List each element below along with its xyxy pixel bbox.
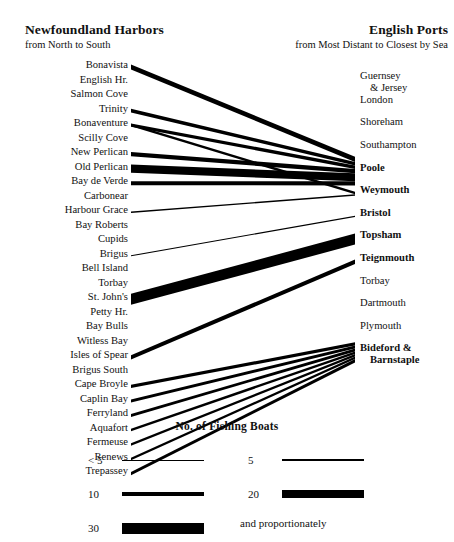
- harbor-row: Cape Broyle: [0, 377, 128, 392]
- harbor-row: Carbonear: [0, 189, 128, 204]
- harbor-row: Brigus: [0, 247, 128, 262]
- port-row: London: [360, 93, 454, 116]
- harbor-row: Caplin Bay: [0, 392, 128, 407]
- port-row: Poole: [360, 161, 454, 184]
- flow-band: [131, 234, 355, 305]
- port-label: Torbay: [360, 275, 390, 286]
- harbor-label: Harbour Grace: [65, 204, 128, 215]
- port-label: Southampton: [360, 139, 417, 150]
- harbor-label: Old Perlican: [75, 161, 128, 172]
- port-row: Weymouth: [360, 183, 454, 206]
- harbor-label: Bonavista: [86, 59, 128, 70]
- legend-entry-swatch: [122, 492, 204, 496]
- harbor-row: Scilly Cove: [0, 131, 128, 146]
- port-row: Bideford &Barnstaple: [360, 342, 454, 365]
- harbor-label: Ferryland: [87, 407, 128, 418]
- legend-entry: 5: [248, 454, 364, 466]
- harbor-label: Isles of Spear: [70, 349, 128, 360]
- harbor-label: Brigus South: [72, 364, 128, 375]
- legend-grid: < 55102030and proportionately: [0, 454, 454, 542]
- port-label: Bristol: [360, 207, 391, 218]
- port-row: Plymouth: [360, 319, 454, 342]
- flow-diagram-page: Newfoundland Harbors from North to South…: [0, 0, 454, 542]
- harbor-row: Petty Hr.: [0, 305, 128, 320]
- harbor-row: Harbour Grace: [0, 203, 128, 218]
- harbor-label: Salmon Cove: [71, 88, 128, 99]
- harbor-label: Bonaventure: [74, 117, 128, 128]
- port-row: Bristol: [360, 206, 454, 229]
- harbor-label: Trinity: [99, 103, 128, 114]
- legend-entry-swatch: [282, 490, 364, 498]
- harbor-label: St. John's: [88, 291, 128, 302]
- legend: No. of Fishing Boats < 55102030and propo…: [0, 420, 454, 542]
- harbor-row: Bonaventure: [0, 116, 128, 131]
- english-port-list: Guernsey& JerseyLondonShorehamSouthampto…: [360, 70, 454, 364]
- newfoundland-harbor-list: BonavistaEnglish Hr.Salmon CoveTrinityBo…: [0, 58, 128, 479]
- port-label-line2: Barnstaple: [360, 354, 454, 366]
- harbor-row: Witless Bay: [0, 334, 128, 349]
- harbor-label: Torbay: [98, 277, 128, 288]
- legend-entry-label: 20: [248, 488, 282, 500]
- port-label: Shoreham: [360, 116, 403, 127]
- legend-title: No. of Fishing Boats: [0, 420, 454, 432]
- legend-entry: 10: [88, 488, 204, 500]
- port-row: Guernsey& Jersey: [360, 70, 454, 93]
- harbor-row: Bay Roberts: [0, 218, 128, 233]
- harbor-label: Bay Roberts: [75, 219, 128, 230]
- legend-entry: 30: [88, 522, 204, 534]
- harbor-label: Caplin Bay: [80, 393, 128, 404]
- harbor-row: Salmon Cove: [0, 87, 128, 102]
- port-label: Teignmouth: [360, 252, 414, 263]
- harbor-row: Bonavista: [0, 58, 128, 73]
- legend-entry-label: 10: [88, 488, 122, 500]
- harbor-label: Bay de Verde: [71, 175, 128, 186]
- port-label: Weymouth: [360, 184, 409, 195]
- harbor-label: Brigus: [100, 248, 128, 259]
- port-label: Topsham: [360, 229, 401, 240]
- harbor-row: Bell Island: [0, 261, 128, 276]
- port-label: London: [360, 94, 393, 105]
- legend-entry-label: 5: [248, 454, 282, 466]
- legend-entry-swatch: [122, 523, 204, 534]
- legend-entry: 20: [248, 488, 364, 500]
- port-row: Teignmouth: [360, 251, 454, 274]
- port-label: Plymouth: [360, 320, 401, 331]
- port-row: Shoreham: [360, 115, 454, 138]
- harbor-label: Cupids: [98, 233, 128, 244]
- harbor-label: English Hr.: [80, 74, 128, 85]
- harbor-row: St. John's: [0, 290, 128, 305]
- harbor-row: Trinity: [0, 102, 128, 117]
- harbor-row: Brigus South: [0, 363, 128, 378]
- legend-entry-label: 30: [88, 522, 122, 534]
- harbor-row: English Hr.: [0, 73, 128, 88]
- harbor-label: Cape Broyle: [75, 378, 128, 389]
- flow-band: [131, 348, 355, 416]
- port-label: Poole: [360, 162, 385, 173]
- harbor-row: Torbay: [0, 276, 128, 291]
- harbor-row: Ferryland: [0, 406, 128, 421]
- harbor-row: Bay de Verde: [0, 174, 128, 189]
- port-row: Dartmouth: [360, 296, 454, 319]
- harbor-label: Bell Island: [82, 262, 128, 273]
- harbor-label: Petty Hr.: [90, 306, 128, 317]
- harbor-row: Old Perlican: [0, 160, 128, 175]
- harbor-row: Bay Bulls: [0, 319, 128, 334]
- port-label: Guernsey: [360, 70, 401, 81]
- legend-entry-swatch: [282, 459, 364, 461]
- harbor-label: Witless Bay: [77, 335, 128, 346]
- harbor-row: Isles of Spear: [0, 348, 128, 363]
- flow-band: [131, 194, 355, 213]
- port-row: Southampton: [360, 138, 454, 161]
- legend-note: and proportionately: [240, 517, 326, 529]
- legend-entry: < 5: [88, 454, 204, 466]
- harbor-label: Scilly Cove: [78, 132, 128, 143]
- harbor-label: New Perlican: [71, 146, 128, 157]
- harbor-label: Carbonear: [84, 190, 128, 201]
- port-label: Bideford &: [360, 342, 412, 353]
- legend-entry-swatch: [122, 460, 204, 461]
- harbor-label: Bay Bulls: [86, 320, 128, 331]
- port-row: Torbay: [360, 274, 454, 297]
- harbor-row: New Perlican: [0, 145, 128, 160]
- harbor-row: Cupids: [0, 232, 128, 247]
- legend-entry-label: < 5: [88, 454, 122, 466]
